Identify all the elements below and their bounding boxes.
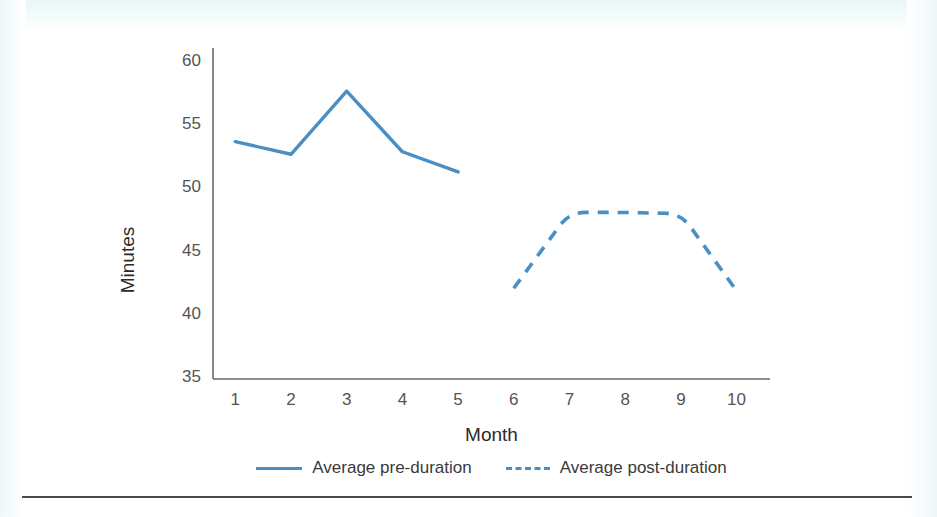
- legend-dashed-line-icon: [506, 467, 550, 470]
- y-tick-label: 40: [161, 304, 201, 324]
- legend-item[interactable]: Average pre-duration: [256, 458, 471, 478]
- y-axis-title: Minutes: [113, 150, 143, 370]
- y-tick-label: 35: [161, 367, 201, 387]
- y-tick-label: 55: [161, 114, 201, 134]
- chart-legend: Average pre-durationAverage post-duratio…: [213, 458, 770, 478]
- x-tick-label: 5: [438, 390, 478, 410]
- x-axis-title: Month: [213, 424, 770, 446]
- y-tick-label: 60: [161, 51, 201, 71]
- y-tick-label: 45: [161, 241, 201, 261]
- legend-item-label: Average pre-duration: [312, 458, 471, 478]
- y-tick-label: 50: [161, 177, 201, 197]
- x-tick-label: 1: [215, 390, 255, 410]
- legend-solid-line-icon: [256, 467, 302, 470]
- x-tick-label: 4: [382, 390, 422, 410]
- x-tick-label: 2: [271, 390, 311, 410]
- bottom-divider-rule: [22, 496, 912, 498]
- x-tick-label: 6: [494, 390, 534, 410]
- x-tick-label: 7: [549, 390, 589, 410]
- y-axis-title-label: Minutes: [117, 227, 139, 294]
- figure-page: 354045505560 12345678910 Minutes Month A…: [0, 0, 937, 517]
- legend-item[interactable]: Average post-duration: [506, 458, 727, 478]
- line-chart-figure: 354045505560 12345678910 Minutes Month A…: [0, 0, 937, 517]
- series-line-post-duration: [514, 212, 737, 290]
- x-tick-label: 3: [327, 390, 367, 410]
- x-tick-label: 8: [605, 390, 645, 410]
- series-line-pre-duration: [235, 91, 458, 172]
- x-tick-label: 10: [717, 390, 757, 410]
- x-tick-label: 9: [661, 390, 701, 410]
- legend-item-label: Average post-duration: [560, 458, 727, 478]
